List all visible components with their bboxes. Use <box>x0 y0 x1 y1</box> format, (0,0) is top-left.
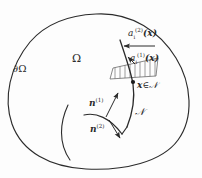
label-point-in-set: 𝒙∈𝒩 <box>137 81 158 90</box>
label-normal-1: n(1) <box>89 98 103 108</box>
label-normal-2: n(2) <box>90 124 104 134</box>
label-interface-n: 𝒩 <box>135 107 145 117</box>
label-boundary-omega: ∂Ω <box>13 64 26 74</box>
label-a1-arg: (𝒙) <box>145 53 159 63</box>
label-a1-sup: (1) <box>137 52 145 58</box>
label-n2-sup: (2) <box>97 123 105 129</box>
n1-arrow <box>106 93 118 117</box>
interface-lower-branch <box>122 127 127 134</box>
label-a2-arg: (𝒙) <box>143 28 157 38</box>
figure-canvas: Ω ∂Ω ai(2)(𝒙) ai(1)(𝒙) 𝒙∈𝒩 n(1) n(2) 𝒩 <box>0 0 202 178</box>
label-a2-sup: (2) <box>135 27 143 33</box>
marker-point-x <box>131 80 135 84</box>
label-n1-sup: (1) <box>96 97 104 103</box>
domain-outline <box>8 14 189 169</box>
label-a-upper-2: ai(2)(𝒙) <box>128 28 157 40</box>
label-a1-sub: i <box>135 59 137 65</box>
interior-crack <box>62 105 71 160</box>
label-omega: Ω <box>72 53 81 64</box>
diagram-vector-graphics <box>0 0 202 178</box>
label-set-n: 𝒩 <box>149 80 158 90</box>
label-a2-sub: i <box>133 34 135 40</box>
label-a-upper-1: ai(1)(𝒙) <box>130 53 159 65</box>
